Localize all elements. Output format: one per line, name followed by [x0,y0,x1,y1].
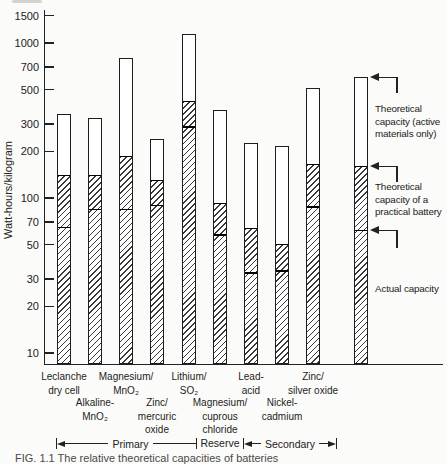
annotation-line: capacity (active [375,116,440,129]
y-tick [44,15,54,16]
annotation-leader-line [396,77,397,93]
annotation-line: Theoretical [375,103,440,116]
span-line [65,443,108,444]
y-tick [44,352,54,353]
x-axis-label: Nickel-cadmium [240,396,324,423]
group-label-primary: Primary [108,438,152,450]
actual-capacity-line [151,205,163,207]
annotation-theoretical-capacity-practical: Theoretical capacity of a practical batt… [375,181,442,219]
hatched-practical-capacity-segment [245,228,257,363]
annotation-theoretical-capacity-active: Theoretical capacity (active materials o… [375,103,440,141]
y-tick [44,278,54,279]
annotation-line: Theoretical [375,181,442,194]
y-tick [44,66,54,67]
hatched-practical-capacity-segment [89,175,101,363]
bar-6 [244,143,258,364]
group-label-secondary: Secondary [261,438,319,450]
actual-capacity-line [58,227,70,229]
annotation-line: practical battery [375,206,442,219]
y-tick [44,42,54,43]
caption-clipped: FIG. 1.1 The relative theoretical capaci… [15,452,278,464]
arrow-left-icon [57,441,65,447]
y-tick-label: 50 [0,239,39,251]
annotation-leader-line [396,166,397,182]
y-tick-label: 30 [0,273,39,285]
y-tick-label: 200 [0,145,39,157]
actual-capacity-line [183,126,195,128]
hatched-practical-capacity-segment [120,156,132,363]
annotation-actual-capacity: Actual capacity [375,283,439,296]
group-span-secondary: Secondary [243,437,337,450]
annotation-line: materials only) [375,128,440,141]
hatched-practical-capacity-segment [183,101,195,363]
actual-capacity-line [89,209,101,211]
y-axis-line [44,10,45,364]
actual-capacity-line [214,234,226,236]
y-tick-label: 500 [0,84,39,96]
span-line [252,443,261,444]
annotation-leader-line [378,166,397,167]
arrow-left-icon [244,441,252,447]
actual-capacity-line [120,209,132,211]
bar-7 [275,146,289,364]
hatched-practical-capacity-segment [151,180,163,363]
hatched-practical-capacity-segment [58,175,70,363]
x-axis-label-line: silver oxide [271,384,355,398]
y-tick-label: 700 [0,61,39,73]
y-tick-label: 1000 [0,37,39,49]
x-axis-label-line: Zinc/ [271,370,355,384]
annotation-leader-line [378,77,397,78]
bar-3 [150,139,164,364]
example-bar [354,77,368,364]
bar-8 [306,88,320,364]
y-tick [44,306,54,307]
y-tick-label: 10 [0,347,39,359]
y-tick [44,221,54,222]
x-axis-label: Zinc/silver oxide [271,370,355,397]
hatched-practical-capacity-segment [214,203,226,363]
y-tick-label: 300 [0,118,39,130]
bar-2 [119,58,133,364]
annotation-leader-line [396,230,397,248]
group-span-primary: Primary [56,437,197,450]
y-tick-label: 1500 [0,10,39,22]
y-tick [44,123,54,124]
actual-capacity-line [245,272,257,274]
hatched-practical-capacity-segment [355,166,367,363]
x-axis-label-line: Nickel- [240,396,324,410]
annotation-leader-line [378,230,397,231]
hatched-practical-capacity-segment [307,164,319,363]
y-tick [44,151,54,152]
bar-5 [213,110,227,364]
span-line [153,443,196,444]
actual-capacity-line [355,230,367,232]
scan-artifact [12,0,42,3]
group-label-reserve: Reserve [192,437,248,450]
hatched-practical-capacity-segment [276,244,288,363]
x-axis-label-line: chloride [178,423,262,437]
y-tick-label: 100 [0,192,39,204]
span-end-bar [336,438,337,449]
actual-capacity-line [307,206,319,208]
annotation-line: capacity of a [375,194,442,207]
bar-0 [57,114,71,364]
span-line [319,443,328,444]
y-tick-label: 20 [0,300,39,312]
bar-1 [88,118,102,364]
arrow-right-icon [328,441,336,447]
y-tick [44,89,54,90]
bar-4 [182,34,196,364]
actual-capacity-line [276,270,288,272]
y-tick-label: 70 [0,216,39,228]
x-axis-label-line: cadmium [240,410,324,424]
y-tick [44,197,54,198]
y-tick [44,244,54,245]
annotation-line: Actual capacity [375,283,439,296]
